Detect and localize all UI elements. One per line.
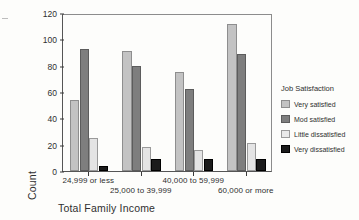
legend: Job Satisfaction Very satisfiedMod satis… <box>281 84 359 160</box>
bar <box>89 138 98 171</box>
y-axis-tick-mark <box>60 14 64 15</box>
y-axis-tick-label: 40 <box>17 114 62 124</box>
plot-area <box>62 14 272 172</box>
legend-swatch <box>281 145 290 153</box>
bar <box>185 89 194 171</box>
bar <box>194 150 203 171</box>
y-axis-tick-label: 0 <box>17 167 62 177</box>
bar <box>256 159 265 171</box>
legend-label: Very dissatisfied <box>294 146 345 153</box>
y-axis-tick-label: 100 <box>17 35 62 45</box>
y-axis-tick-mark <box>60 93 64 94</box>
bar <box>151 159 160 171</box>
legend-item: Very dissatisfied <box>281 145 359 153</box>
bar <box>227 24 236 171</box>
scan-artifact <box>2 18 8 19</box>
bar <box>132 66 141 171</box>
y-axis-tick-mark <box>60 172 64 173</box>
bar <box>142 147 151 171</box>
x-axis-tick-mark <box>246 172 247 176</box>
bar <box>237 54 246 171</box>
y-axis-tick-label: 60 <box>17 88 62 98</box>
bar <box>204 159 213 171</box>
x-axis-category-label: 40,000 to 59,999 <box>162 176 224 185</box>
x-axis-category-label: 24,999 or less <box>62 176 114 185</box>
legend-item: Very satisfied <box>281 100 359 108</box>
bar <box>80 49 89 171</box>
legend-label: Very satisfied <box>294 101 336 108</box>
bar <box>247 143 256 171</box>
y-axis-tick-label: 80 <box>17 62 62 72</box>
x-axis-category-label: 60,000 or more <box>218 186 274 195</box>
bar <box>175 72 184 171</box>
bar-chart: Count 020406080100120 24,999 or less25,0… <box>0 0 359 220</box>
bar <box>122 51 131 171</box>
y-axis-tick-mark <box>60 66 64 67</box>
y-axis-tick-mark <box>60 119 64 120</box>
x-axis-category-label: 25,000 to 39,999 <box>110 186 172 195</box>
legend-swatch <box>281 130 290 138</box>
legend-swatch <box>281 115 290 123</box>
legend-item: Little dissatisfied <box>281 130 359 138</box>
legend-item: Mod satisfied <box>281 115 359 123</box>
bar-group <box>63 15 116 171</box>
y-axis-tick-label: 20 <box>17 141 62 151</box>
legend-label: Little dissatisfied <box>294 131 345 138</box>
y-axis-tick-mark <box>60 40 64 41</box>
legend-items: Very satisfiedMod satisfiedLittle dissat… <box>281 100 359 153</box>
legend-swatch <box>281 100 290 108</box>
legend-title: Job Satisfaction <box>281 84 359 93</box>
bar <box>70 100 79 171</box>
bar-group <box>168 15 221 171</box>
y-axis-tick-label: 120 <box>17 9 62 19</box>
bar-group <box>221 15 274 171</box>
bar-group <box>116 15 169 171</box>
bar <box>99 166 108 171</box>
bars-layer <box>63 15 271 171</box>
x-axis-title: Total Family Income <box>58 202 155 214</box>
x-axis-tick-mark <box>141 172 142 176</box>
y-axis-tick-mark <box>60 145 64 146</box>
legend-label: Mod satisfied <box>294 116 335 123</box>
